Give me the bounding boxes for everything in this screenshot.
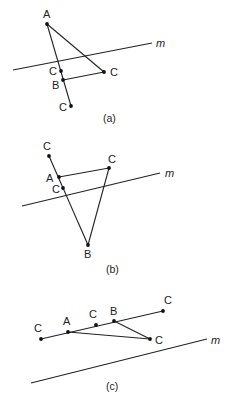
label-b: B xyxy=(84,248,91,260)
label-c2: C xyxy=(110,66,118,78)
point-c3 xyxy=(161,309,165,313)
label-c1: C xyxy=(49,65,57,77)
segment-c-right-b xyxy=(88,168,109,245)
label-c2: C xyxy=(89,308,97,320)
line-m xyxy=(22,173,160,206)
segment-a-c xyxy=(59,168,109,177)
point-c1 xyxy=(59,69,63,73)
line-m xyxy=(13,43,152,70)
point-c4 xyxy=(148,337,152,341)
point-c3 xyxy=(107,166,111,170)
label-c3: C xyxy=(164,294,172,306)
point-a xyxy=(57,175,61,179)
point-c2 xyxy=(94,323,98,327)
point-a xyxy=(45,22,49,26)
label-c3: C xyxy=(108,153,116,165)
segment-c-b xyxy=(49,156,88,245)
point-c2 xyxy=(61,186,65,190)
label-m: m xyxy=(156,37,165,49)
point-c1 xyxy=(47,154,51,158)
figure-b: C A C C B m (b) xyxy=(22,140,174,275)
label-c1: C xyxy=(34,322,42,334)
point-b xyxy=(86,243,90,247)
label-m: m xyxy=(165,167,174,179)
point-a xyxy=(66,330,70,334)
segment-b-c xyxy=(63,72,104,80)
point-b xyxy=(112,319,116,323)
figure-a: A C B C C m (a) xyxy=(13,8,165,124)
caption-a: (a) xyxy=(103,112,116,124)
label-a: A xyxy=(63,315,71,327)
label-a: A xyxy=(43,8,51,20)
label-c2: C xyxy=(52,183,60,195)
label-c3: C xyxy=(59,101,67,113)
point-b xyxy=(61,78,65,82)
label-c4: C xyxy=(155,334,163,346)
label-c1: C xyxy=(43,140,51,152)
line-m xyxy=(31,339,207,383)
caption-b: (b) xyxy=(106,263,119,275)
diagram-canvas: A C B C C m (a) C A C C B m (b) xyxy=(0,0,235,402)
label-b: B xyxy=(52,79,59,91)
label-m: m xyxy=(211,334,220,346)
point-c3 xyxy=(69,104,73,108)
label-b: B xyxy=(110,305,117,317)
caption-c: (c) xyxy=(106,380,118,392)
point-c1 xyxy=(39,337,43,341)
figure-c: C A C B C C m (c) xyxy=(31,294,220,392)
point-c2 xyxy=(102,70,106,74)
